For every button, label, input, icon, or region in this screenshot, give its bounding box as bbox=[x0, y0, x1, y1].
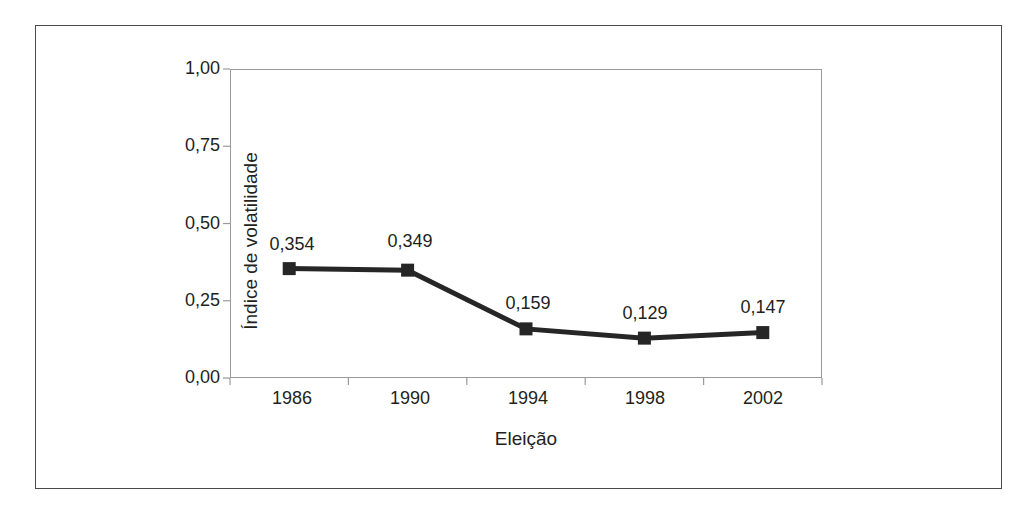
data-label-1994: 0,159 bbox=[488, 293, 568, 314]
plot-area: Índice de volatilidade bbox=[230, 69, 822, 378]
x-tick-label-1986: 1986 bbox=[252, 388, 332, 409]
data-label-2002: 0,147 bbox=[723, 297, 803, 318]
x-tick-label-2002: 2002 bbox=[723, 388, 803, 409]
x-tick-label-1998: 1998 bbox=[605, 388, 685, 409]
x-tick-label-1994: 1994 bbox=[488, 388, 568, 409]
y-tick-label-050: 0,50 bbox=[168, 213, 220, 234]
y-tick-label-000: 0,00 bbox=[168, 367, 220, 388]
x-tick-label-1990: 1990 bbox=[370, 388, 450, 409]
y-tick-label-100: 1,00 bbox=[168, 58, 220, 79]
y-tick-label-025: 0,25 bbox=[168, 290, 220, 311]
y-tick-label-075: 0,75 bbox=[168, 135, 220, 156]
x-axis-title: Eleição bbox=[230, 428, 822, 450]
data-label-1986: 0,354 bbox=[252, 234, 332, 255]
figure-container: Índice de volatilidade Eleição 1,00 0,75… bbox=[0, 0, 1035, 517]
data-label-1998: 0,129 bbox=[605, 303, 685, 324]
data-label-1990: 0,349 bbox=[370, 231, 450, 252]
